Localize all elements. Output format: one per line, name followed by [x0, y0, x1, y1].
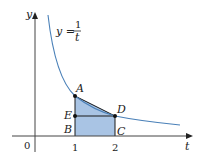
label-e: E	[63, 109, 72, 122]
label-a: A	[75, 82, 84, 95]
point-e	[73, 114, 77, 118]
x-axis-label: t	[185, 140, 190, 153]
origin-label: 0	[24, 140, 30, 151]
x-tick-2: 2	[112, 142, 118, 153]
label-c: C	[117, 125, 126, 138]
x-axis-arrow-icon	[186, 133, 193, 139]
diagram-canvas: y t 0 1 2 A E B D C y = 1 t	[0, 0, 201, 159]
x-tick-1: 1	[72, 142, 78, 153]
equation-lhs: y =	[55, 25, 75, 38]
y-axis-arrow-icon	[32, 12, 38, 19]
label-b: B	[63, 123, 72, 136]
y-axis-label: y	[25, 8, 33, 21]
label-d: D	[116, 103, 126, 116]
equation-denominator: t	[75, 31, 80, 44]
equation-numerator: 1	[75, 19, 81, 30]
